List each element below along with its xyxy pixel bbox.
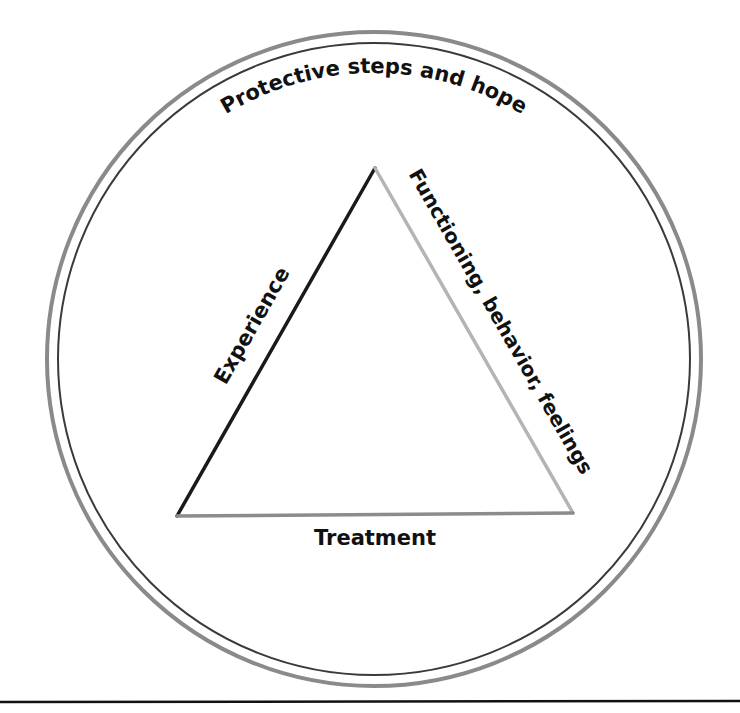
functioning-label: Functioning, behavior, feelings bbox=[404, 165, 598, 479]
triangle-side-bottom bbox=[177, 513, 573, 516]
footer-rule bbox=[0, 701, 740, 702]
treatment-label: Treatment bbox=[314, 526, 436, 550]
triangle-side-left bbox=[177, 168, 375, 516]
inner-ring bbox=[58, 43, 690, 675]
diagram-canvas: Protective steps and hope Experience Fun… bbox=[0, 0, 740, 713]
experience-label: Experience bbox=[209, 263, 294, 388]
outer-ring bbox=[47, 32, 701, 686]
triangle-side-right bbox=[375, 168, 573, 513]
